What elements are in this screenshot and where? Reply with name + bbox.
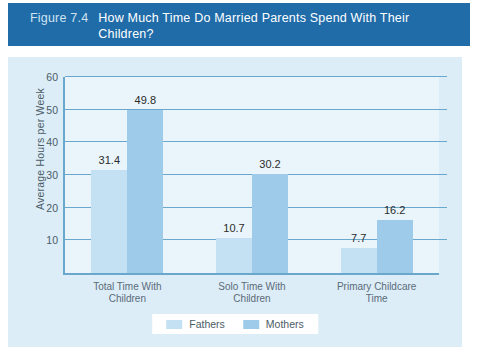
x-category-label-line: Primary Childcare	[337, 281, 416, 293]
x-category-label-line: Total Time With	[93, 281, 161, 293]
bars-layer: 31.449.8Total Time WithChildren10.730.2S…	[65, 77, 439, 273]
bar-mothers-2: 30.2	[252, 174, 288, 273]
page-title: How Much Time Do Married Parents Spend W…	[98, 10, 438, 42]
legend-item-mothers: Mothers	[243, 318, 304, 330]
title-line: Figure 7.4 How Much Time Do Married Pare…	[30, 10, 456, 42]
y-tick-label-50: 50	[46, 104, 58, 116]
x-category-label-line: Children	[218, 293, 285, 305]
x-category-label-line: Solo Time With	[218, 281, 285, 293]
x-category-label-3: Primary ChildcareTime	[337, 281, 416, 305]
chart-panel: Average Hours per Week 0102030405060 31.…	[8, 57, 462, 347]
y-tick-label-30: 30	[46, 169, 58, 181]
y-axis-title: Average Hours per Week	[34, 54, 46, 244]
x-category-label-1: Total Time WithChildren	[93, 281, 161, 305]
bar-value-mothers-1: 49.8	[135, 94, 156, 106]
y-tick-label-10: 10	[46, 234, 58, 246]
bar-mothers-3: 16.2	[377, 220, 413, 273]
bar-mothers-1: 49.8	[127, 110, 163, 273]
bar-value-fathers-2: 10.7	[223, 222, 244, 234]
bar-group-2: 10.730.2Solo Time WithChildren	[190, 77, 315, 273]
bar-group-3: 7.716.2Primary ChildcareTime	[314, 77, 439, 273]
y-tick-label-20: 20	[46, 202, 58, 214]
legend-label-mothers: Mothers	[266, 318, 304, 330]
bar-value-fathers-3: 7.7	[351, 232, 366, 244]
y-tick-label-40: 40	[46, 136, 58, 148]
x-category-label-2: Solo Time WithChildren	[218, 281, 285, 305]
bar-fathers-3: 7.7	[341, 248, 377, 273]
bar-value-mothers-3: 16.2	[384, 204, 405, 216]
x-category-label-line: Time	[337, 293, 416, 305]
figure-number: Figure 7.4	[30, 10, 88, 26]
figure-title-banner: Figure 7.4 How Much Time Do Married Pare…	[8, 3, 470, 46]
legend-swatch-mothers	[243, 320, 259, 329]
legend-item-fathers: Fathers	[166, 318, 225, 330]
bar-fathers-1: 31.4	[91, 170, 127, 273]
plot-area: 0102030405060 31.449.8Total Time WithChi…	[63, 77, 439, 275]
bar-value-fathers-1: 31.4	[99, 154, 120, 166]
y-tick-label-60: 60	[46, 71, 58, 83]
bar-fathers-2: 10.7	[216, 238, 252, 273]
chart-legend: Fathers Mothers	[152, 314, 318, 334]
bar-value-mothers-2: 30.2	[259, 158, 280, 170]
x-category-label-line: Children	[93, 293, 161, 305]
bar-group-1: 31.449.8Total Time WithChildren	[65, 77, 190, 273]
legend-label-fathers: Fathers	[189, 318, 225, 330]
legend-swatch-fathers	[166, 320, 182, 329]
